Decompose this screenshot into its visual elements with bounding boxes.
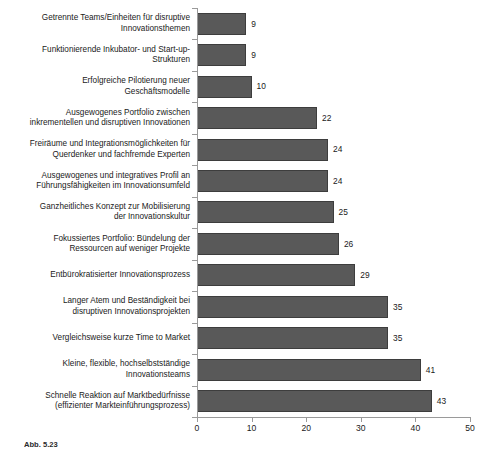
x-axis-tick-label: 30 xyxy=(356,424,366,433)
category-label: Vergleichsweise kurze Time to Market xyxy=(4,323,190,354)
bar-group: 9 xyxy=(197,8,256,39)
plot-area: Getrennte Teams/Einheiten für disruptive… xyxy=(0,0,487,449)
bar xyxy=(197,107,317,129)
bar xyxy=(197,139,328,161)
bar xyxy=(197,233,339,255)
bar xyxy=(197,201,334,223)
x-axis-tick xyxy=(306,418,307,422)
category-label: Getrennte Teams/Einheiten für disruptive… xyxy=(4,8,190,39)
y-axis-tick xyxy=(192,134,197,135)
x-axis-tick-label: 40 xyxy=(411,424,421,433)
bar-value-label: 25 xyxy=(339,208,348,216)
x-axis-tick-label: 10 xyxy=(247,424,257,433)
bar xyxy=(197,76,252,98)
bar-value-label: 24 xyxy=(333,145,342,153)
bar-value-label: 41 xyxy=(426,366,435,374)
bar-value-label: 22 xyxy=(322,114,331,122)
bar-row: Ausgewogenes und integratives Profil an … xyxy=(0,165,487,196)
bar-row: Erfolgreiche Pilotierung neuer Geschäfts… xyxy=(0,71,487,102)
bar-group: 24 xyxy=(197,134,342,165)
y-axis-tick xyxy=(192,165,197,166)
bar-group: 22 xyxy=(197,102,331,133)
category-label: Freiräume und Integrationsmöglichkeiten … xyxy=(4,134,190,165)
x-axis-tick-label: 0 xyxy=(195,424,200,433)
bar xyxy=(197,170,328,192)
bar xyxy=(197,359,421,381)
bar-row: Vergleichsweise kurze Time to Market35 xyxy=(0,323,487,354)
bar-group: 29 xyxy=(197,260,370,291)
bar-group: 24 xyxy=(197,165,342,196)
bar-value-label: 29 xyxy=(360,271,369,279)
category-label: Entbürokratisierter Innovationsprozess xyxy=(4,260,190,291)
y-axis-tick xyxy=(192,323,197,324)
bar-value-label: 24 xyxy=(333,177,342,185)
bar-group: 9 xyxy=(197,39,256,70)
x-axis-tick xyxy=(197,418,198,422)
bar xyxy=(197,13,246,35)
category-label: Erfolgreiche Pilotierung neuer Geschäfts… xyxy=(4,71,190,102)
category-label: Ausgewogenes und integratives Profil an … xyxy=(4,165,190,196)
bar-value-label: 35 xyxy=(393,303,402,311)
bar xyxy=(197,296,388,318)
bar-row: Getrennte Teams/Einheiten für disruptive… xyxy=(0,8,487,39)
bar-value-label: 43 xyxy=(437,397,446,405)
figure-caption-label: Abb. 5.23 xyxy=(24,440,58,449)
bar-group: 41 xyxy=(197,354,435,385)
y-axis-tick xyxy=(192,102,197,103)
bar-value-label: 9 xyxy=(251,51,256,59)
y-axis-tick xyxy=(192,354,197,355)
bar-group: 10 xyxy=(197,71,266,102)
category-label: Fokussiertes Portfolio: Bündelung der Re… xyxy=(4,228,190,259)
bar xyxy=(197,264,355,286)
y-axis-tick xyxy=(192,260,197,261)
bar-value-label: 35 xyxy=(393,334,402,342)
bar-row: Ganzheitliches Konzept zur Mobilisierung… xyxy=(0,197,487,228)
bar-group: 43 xyxy=(197,386,446,417)
bar-group: 25 xyxy=(197,197,348,228)
bar-value-label: 10 xyxy=(257,82,266,90)
x-axis-tick-label: 50 xyxy=(465,424,475,433)
figure-caption: Abb. 5.23 xyxy=(24,440,464,449)
y-axis-tick xyxy=(192,291,197,292)
category-label: Ganzheitliches Konzept zur Mobilisierung… xyxy=(4,197,190,228)
x-axis-line xyxy=(197,417,471,418)
bar-row: Schnelle Reaktion auf Marktbedürfnisse (… xyxy=(0,386,487,417)
bar-value-label: 26 xyxy=(344,240,353,248)
y-axis-tick xyxy=(192,71,197,72)
bar-group: 35 xyxy=(197,291,402,322)
bar xyxy=(197,44,246,66)
y-axis-tick xyxy=(192,39,197,40)
bar-row: Funktionierende Inkubator- und Start-up-… xyxy=(0,39,487,70)
y-axis-tick xyxy=(192,386,197,387)
bar xyxy=(197,327,388,349)
category-label: Langer Atem und Beständigkeit bei disrup… xyxy=(4,291,190,322)
bar-row: Fokussiertes Portfolio: Bündelung der Re… xyxy=(0,228,487,259)
x-axis-tick xyxy=(415,418,416,422)
y-axis-tick xyxy=(192,197,197,198)
x-axis-tick xyxy=(361,418,362,422)
bar-group: 26 xyxy=(197,228,353,259)
x-axis-tick xyxy=(470,418,471,422)
bar-row: Langer Atem und Beständigkeit bei disrup… xyxy=(0,291,487,322)
category-label: Kleine, flexible, hochselbstständige Inn… xyxy=(4,354,190,385)
category-label: Funktionierende Inkubator- und Start-up-… xyxy=(4,39,190,70)
category-label: Ausgewogenes Portfolio zwischen inkremen… xyxy=(4,102,190,133)
bar-row: Ausgewogenes Portfolio zwischen inkremen… xyxy=(0,102,487,133)
x-axis-tick xyxy=(252,418,253,422)
category-label: Schnelle Reaktion auf Marktbedürfnisse (… xyxy=(4,386,190,417)
bar-row: Kleine, flexible, hochselbstständige Inn… xyxy=(0,354,487,385)
bar-row: Freiräume und Integrationsmöglichkeiten … xyxy=(0,134,487,165)
figure-bar-chart: Getrennte Teams/Einheiten für disruptive… xyxy=(0,0,487,449)
x-axis-tick-label: 20 xyxy=(301,424,311,433)
y-axis-line xyxy=(197,8,198,417)
y-axis-tick xyxy=(192,8,197,9)
bar-value-label: 9 xyxy=(251,20,256,28)
bar-group: 35 xyxy=(197,323,402,354)
y-axis-tick xyxy=(192,228,197,229)
bar xyxy=(197,390,432,412)
bar-row: Entbürokratisierter Innovationsprozess29 xyxy=(0,260,487,291)
